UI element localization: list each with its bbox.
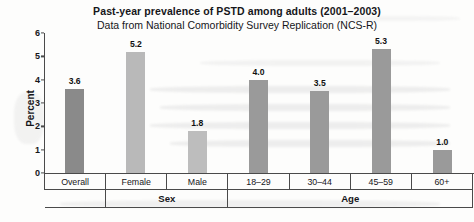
axis-category-cell: Female xyxy=(106,174,167,190)
bar-30-44: 3.5 xyxy=(310,91,329,173)
bar-60: 1.0 xyxy=(433,150,452,173)
bar-overall: 3.6 xyxy=(65,89,84,173)
bar-value-label: 3.5 xyxy=(314,78,326,88)
category-label-row: OverallFemaleMale18–2930–4445–5960+ xyxy=(45,174,473,190)
axis-category-cell: Overall xyxy=(45,174,106,190)
axis-group-spacer xyxy=(45,190,106,208)
bar-value-label: 5.3 xyxy=(375,36,387,46)
bars-container: 3.65.21.84.03.55.31.0 xyxy=(44,33,474,173)
y-axis-tick-label: 2 xyxy=(0,121,40,131)
bar-value-label: 3.6 xyxy=(69,76,81,86)
chart-page: Past-year prevalence of PSTD among adult… xyxy=(0,0,474,222)
axis-category-cell: 45–59 xyxy=(350,174,411,190)
axis-category-cell: 30–44 xyxy=(289,174,350,190)
y-axis-tick-label: 3 xyxy=(0,98,40,108)
y-axis-tick-label: 5 xyxy=(0,51,40,61)
bar-value-label: 1.0 xyxy=(436,137,448,147)
y-axis-tick-label: 0 xyxy=(0,168,40,178)
y-axis-tick-label: 6 xyxy=(0,28,40,38)
bar-male: 1.8 xyxy=(188,131,207,173)
axis-category-cell: 18–29 xyxy=(228,174,289,190)
axis-category-cell: Male xyxy=(167,174,228,190)
axis-group-cell: Sex xyxy=(106,190,228,208)
bar-value-label: 5.2 xyxy=(130,39,142,49)
bar-18-29: 4.0 xyxy=(249,80,268,173)
axis-category-cell: 60+ xyxy=(411,174,472,190)
axis-group-cell: Age xyxy=(228,190,473,208)
bar-female: 5.2 xyxy=(126,52,145,173)
chart-title: Past-year prevalence of PSTD among adult… xyxy=(0,4,474,18)
y-axis-tick-label: 1 xyxy=(0,145,40,155)
bar-value-label: 1.8 xyxy=(191,118,203,128)
bar-45-59: 5.3 xyxy=(372,49,391,173)
bar-value-label: 4.0 xyxy=(253,67,265,77)
group-label-row: SexAge xyxy=(45,190,473,208)
chart-header: Past-year prevalence of PSTD among adult… xyxy=(0,4,474,32)
category-axis-table: OverallFemaleMale18–2930–4445–5960+ SexA… xyxy=(44,173,473,208)
y-axis-tick-label: 4 xyxy=(0,75,40,85)
chart-subtitle: Data from National Comorbidity Survey Re… xyxy=(0,18,474,32)
